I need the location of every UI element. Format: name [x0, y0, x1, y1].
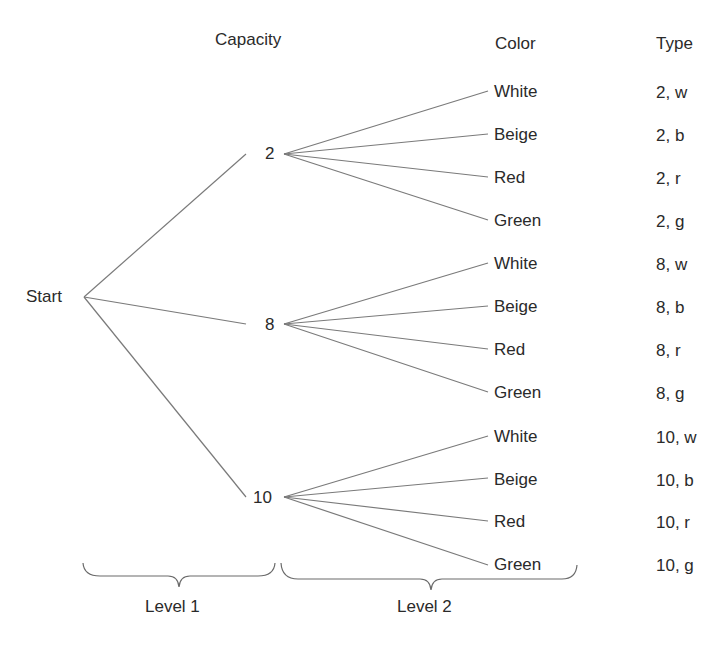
leaf-color: Red [494, 512, 525, 532]
edge-8-red [284, 324, 488, 349]
leaf-color: Beige [494, 297, 537, 317]
node-capacity-8: 8 [265, 315, 274, 335]
edge-start-to-2 [84, 154, 246, 297]
leaf-color: Beige [494, 470, 537, 490]
level-1-brace [83, 563, 275, 587]
header-capacity: Capacity [215, 30, 281, 50]
type-value: 10, r [656, 513, 690, 533]
leaf-color: Red [494, 340, 525, 360]
node-capacity-10: 10 [253, 488, 272, 508]
type-value: 2, g [656, 212, 684, 232]
type-value: 8, g [656, 384, 684, 404]
type-value: 10, g [656, 556, 694, 576]
header-type: Type [656, 34, 693, 54]
header-color: Color [495, 34, 536, 54]
type-value: 2, b [656, 126, 684, 146]
leaf-color: Green [494, 211, 541, 231]
level-2-label: Level 2 [397, 597, 452, 617]
leaf-color: Green [494, 555, 541, 575]
type-value: 8, w [656, 255, 687, 275]
type-value: 2, r [656, 169, 681, 189]
node-start: Start [26, 287, 62, 307]
leaf-color: Beige [494, 125, 537, 145]
edge-8-green [284, 324, 488, 392]
type-value: 8, r [656, 341, 681, 361]
edge-start-to-10 [84, 297, 246, 497]
edge-start-to-8 [84, 297, 246, 324]
leaf-color: Red [494, 168, 525, 188]
leaf-color: White [494, 427, 537, 447]
leaf-color: White [494, 254, 537, 274]
type-value: 10, b [656, 471, 694, 491]
edge-2-green [284, 154, 488, 220]
node-capacity-2: 2 [265, 144, 274, 164]
type-value: 10, w [656, 428, 697, 448]
leaf-color: White [494, 82, 537, 102]
edge-2-red [284, 154, 488, 177]
tree-diagram-lines [0, 0, 727, 648]
edge-10-red [284, 497, 488, 521]
edge-10-green [284, 497, 488, 565]
type-value: 8, b [656, 298, 684, 318]
leaf-color: Green [494, 383, 541, 403]
level-1-label: Level 1 [145, 597, 200, 617]
type-value: 2, w [656, 83, 687, 103]
